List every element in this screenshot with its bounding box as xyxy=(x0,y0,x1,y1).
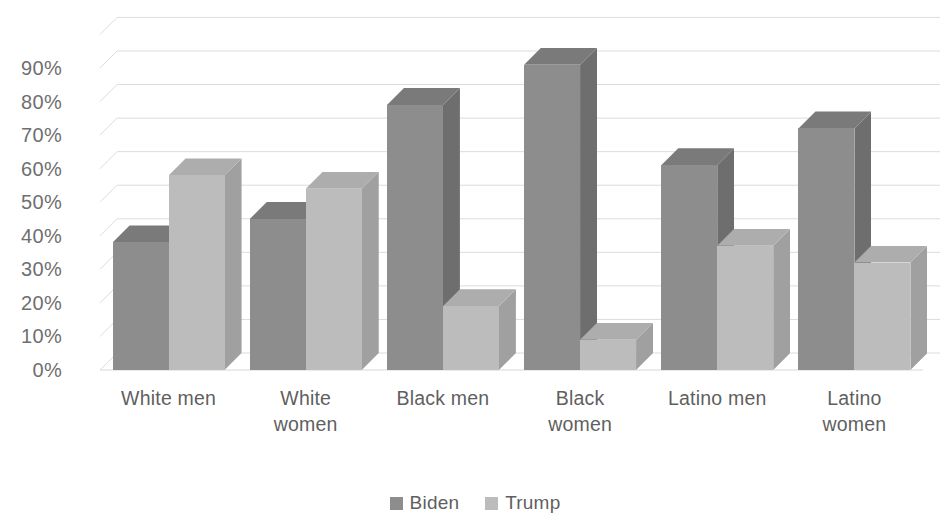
x-axis-category-label: White men xyxy=(100,386,237,412)
bar-front-face xyxy=(524,65,580,370)
legend-label: Biden xyxy=(410,492,460,514)
bar-side-face xyxy=(225,158,242,370)
bar-trump-white-women xyxy=(306,189,362,370)
bar-biden-latino-men xyxy=(661,165,717,370)
bar-front-face xyxy=(306,189,362,370)
bar-side-face xyxy=(580,48,597,370)
bar-trump-black-men xyxy=(443,306,499,370)
bar-trump-black-women xyxy=(580,340,636,370)
legend-swatch-icon xyxy=(485,497,498,510)
bar-front-face xyxy=(113,242,169,370)
chart-container: 90%80%70%60%50%40%30%20%10%0% White menW… xyxy=(0,0,950,531)
bar-biden-white-women xyxy=(250,219,306,370)
bar-front-face xyxy=(387,105,443,370)
bar-biden-white-men xyxy=(113,242,169,370)
x-axis-category-label: Black women xyxy=(512,386,649,437)
bar-front-face xyxy=(717,246,773,370)
bar-front-face xyxy=(854,263,910,370)
x-axis-category-label: Latino women xyxy=(786,386,923,437)
chart-legend: BidenTrump xyxy=(0,492,950,514)
bar-trump-white-men xyxy=(169,175,225,370)
bar-front-face xyxy=(250,219,306,370)
x-axis-category-label: Black men xyxy=(374,386,511,412)
bar-front-face xyxy=(580,340,636,370)
bar-trump-latino-men xyxy=(717,246,773,370)
bar-biden-black-women xyxy=(524,65,580,370)
bar-biden-black-men xyxy=(387,105,443,370)
bar-trump-latino-women xyxy=(854,263,910,370)
legend-swatch-icon xyxy=(390,497,403,510)
bar-side-face xyxy=(362,172,379,370)
x-axis-category-label: Latino men xyxy=(649,386,786,412)
x-axis-category-label: White women xyxy=(237,386,374,437)
bar-front-face xyxy=(798,128,854,370)
bar-front-face xyxy=(661,165,717,370)
bar-front-face xyxy=(169,175,225,370)
bar-biden-latino-women xyxy=(798,128,854,370)
bar-side-face xyxy=(910,246,927,370)
bar-side-face xyxy=(773,229,790,370)
legend-label: Trump xyxy=(505,492,560,514)
bar-front-face xyxy=(443,306,499,370)
legend-item-trump[interactable]: Trump xyxy=(485,492,560,514)
legend-item-biden[interactable]: Biden xyxy=(390,492,460,514)
bars-layer xyxy=(0,0,950,531)
